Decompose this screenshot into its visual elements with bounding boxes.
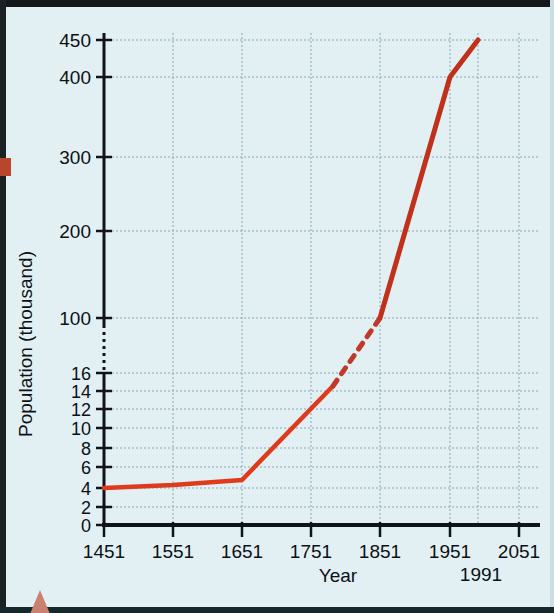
y-tick-label-6: 6 bbox=[81, 458, 91, 478]
y-tick-label-200: 200 bbox=[59, 221, 91, 242]
y-tick-label-8: 8 bbox=[81, 439, 91, 459]
y-axis-title: Population (thousand) bbox=[15, 251, 36, 437]
x-tick-label-1751: 1751 bbox=[290, 541, 332, 562]
horizontal-gridlines bbox=[104, 40, 540, 507]
x-tick-label-2051: 2051 bbox=[498, 541, 540, 562]
y-tick-label-400: 400 bbox=[59, 67, 91, 88]
y-tick-label-4: 4 bbox=[81, 479, 91, 499]
y-tick-label-12: 12 bbox=[71, 400, 91, 420]
vertical-gridlines bbox=[173, 33, 519, 524]
y-tick-label-100: 100 bbox=[59, 308, 91, 329]
x-tick-label-1991: 1991 bbox=[460, 564, 502, 585]
y-tick-label-300: 300 bbox=[59, 147, 91, 168]
x-tick-labels: 1451 1551 1651 1751 1851 1951 2051 1991 bbox=[83, 541, 540, 585]
series-line-dashed-estimate bbox=[333, 318, 380, 386]
x-tick-label-1651: 1651 bbox=[221, 541, 263, 562]
chart-page: 450 400 300 200 100 16 14 12 10 8 6 4 2 … bbox=[0, 0, 554, 613]
population-line-chart: 450 400 300 200 100 16 14 12 10 8 6 4 2 … bbox=[0, 0, 554, 613]
series-line-solid-modern bbox=[380, 40, 478, 318]
y-tick-label-14: 14 bbox=[71, 382, 91, 402]
y-tick-label-10: 10 bbox=[71, 419, 91, 439]
x-tick-label-1551: 1551 bbox=[152, 541, 194, 562]
x-axis-title: Year bbox=[319, 565, 358, 586]
y-tick-label-16: 16 bbox=[71, 364, 91, 384]
series-line-solid-early bbox=[104, 386, 333, 488]
x-tick-label-1851: 1851 bbox=[359, 541, 401, 562]
y-tick-label-2: 2 bbox=[81, 498, 91, 518]
y-tick-labels: 450 400 300 200 100 16 14 12 10 8 6 4 2 … bbox=[59, 30, 91, 536]
y-tick-label-450: 450 bbox=[59, 30, 91, 51]
x-tick-label-1951: 1951 bbox=[429, 541, 471, 562]
y-tick-label-0: 0 bbox=[81, 516, 91, 536]
x-tick-label-1451: 1451 bbox=[83, 541, 125, 562]
